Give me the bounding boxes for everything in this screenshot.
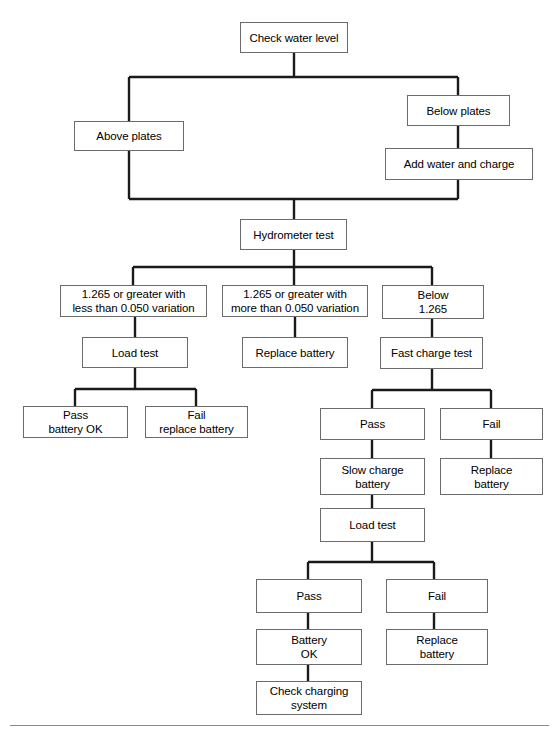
node-label: Fast charge test: [388, 346, 475, 360]
node-replace-battery-2[interactable]: Replace battery: [440, 458, 543, 495]
node-label: Slow charge battery: [338, 463, 406, 491]
node-label: 1.265 or greater with less than 0.050 va…: [69, 287, 197, 315]
node-hydrometer-test[interactable]: Hydrometer test: [240, 219, 347, 250]
node-load-test-2-fail[interactable]: Fail: [386, 579, 488, 613]
node-load-test-2[interactable]: Load test: [320, 508, 425, 542]
node-fast-charge-test[interactable]: Fast charge test: [380, 337, 483, 369]
node-reading-below-1265[interactable]: Below 1.265: [382, 285, 484, 319]
node-load-test-1[interactable]: Load test: [82, 337, 188, 368]
node-check-charging-system[interactable]: Check charging system: [256, 681, 362, 715]
node-label: Fail: [479, 417, 503, 431]
node-label: Above plates: [93, 129, 164, 143]
node-fast-charge-pass[interactable]: Pass: [320, 408, 425, 440]
node-label: Add water and charge: [401, 157, 518, 171]
node-label: Pass: [357, 417, 388, 431]
node-label: Replace battery: [252, 346, 337, 360]
divider-bottom-rule: [10, 725, 549, 726]
node-pass-battery-ok[interactable]: Pass battery OK: [23, 406, 128, 438]
node-label: Load test: [346, 518, 398, 532]
node-replace-battery-3[interactable]: Replace battery: [386, 629, 488, 665]
node-slow-charge-battery[interactable]: Slow charge battery: [320, 458, 425, 495]
node-label: Check charging system: [267, 684, 352, 712]
node-label: Pass battery OK: [46, 408, 106, 436]
node-reading-more-variation[interactable]: 1.265 or greater with more than 0.050 va…: [222, 285, 368, 317]
node-label: Replace battery: [413, 633, 461, 661]
node-label: 1.265 or greater with more than 0.050 va…: [228, 287, 362, 315]
node-load-test-2-pass[interactable]: Pass: [256, 579, 362, 613]
flowchart-canvas: Check water levelAbove platesBelow plate…: [0, 0, 559, 737]
node-label: Fail: [425, 589, 449, 603]
node-add-water-and-charge[interactable]: Add water and charge: [385, 148, 533, 180]
node-label: Below plates: [423, 104, 493, 118]
node-label: Below 1.265: [415, 288, 452, 316]
node-label: Replace battery: [468, 463, 516, 491]
node-label: Fail replace battery: [156, 408, 237, 436]
node-below-plates[interactable]: Below plates: [407, 95, 510, 126]
node-label: Check water level: [246, 31, 341, 45]
node-battery-ok[interactable]: Battery OK: [256, 629, 362, 665]
node-label: Load test: [109, 346, 161, 360]
node-reading-less-variation[interactable]: 1.265 or greater with less than 0.050 va…: [60, 285, 207, 317]
node-check-water-level[interactable]: Check water level: [240, 22, 348, 53]
node-label: Pass: [293, 589, 324, 603]
node-replace-battery-1[interactable]: Replace battery: [242, 337, 348, 368]
node-fail-replace-battery[interactable]: Fail replace battery: [145, 406, 248, 438]
node-label: Hydrometer test: [250, 228, 336, 242]
node-fast-charge-fail[interactable]: Fail: [440, 408, 543, 440]
node-above-plates[interactable]: Above plates: [74, 121, 184, 151]
node-label: Battery OK: [288, 633, 330, 661]
